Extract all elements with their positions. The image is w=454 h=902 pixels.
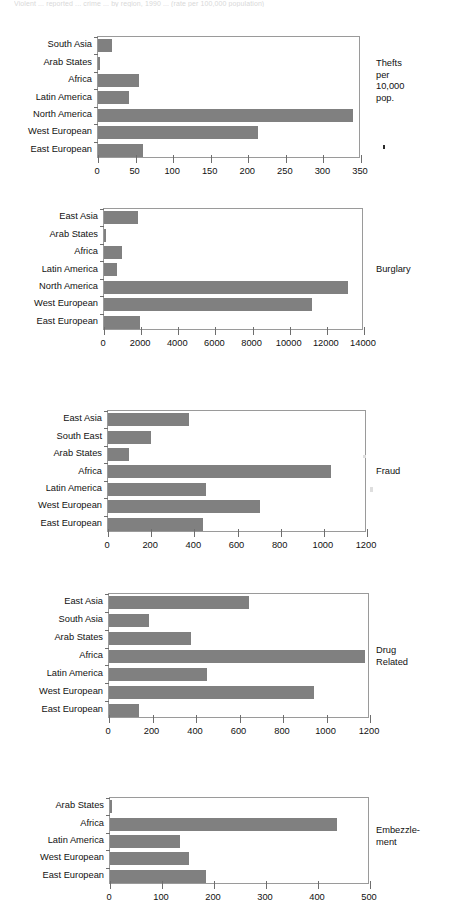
- bar: [110, 818, 337, 831]
- plot-frame: [107, 410, 366, 532]
- y-axis-tick: [104, 481, 108, 482]
- bar: [109, 704, 139, 717]
- x-tick-label: 200: [193, 892, 233, 902]
- x-axis-tick: [248, 155, 249, 163]
- x-tick-label: 800: [262, 726, 302, 736]
- category-label: Arab States: [0, 800, 104, 810]
- category-label: Arab States: [0, 229, 98, 239]
- y-axis-tick: [100, 314, 104, 315]
- plot-area-embezzlement: [109, 797, 369, 884]
- y-axis-tick: [100, 296, 104, 297]
- y-axis-tick: [106, 850, 110, 851]
- x-tick-label: 400: [175, 726, 215, 736]
- cropped-header-text: Violent ... reported ... crime ... by re…: [14, 0, 434, 7]
- category-label: Latin America: [0, 668, 103, 678]
- side-label-thefts: Thefts per 10,000 pop.: [376, 58, 404, 104]
- bar: [109, 596, 249, 609]
- y-axis-tick: [106, 815, 110, 816]
- plot-frame: [108, 593, 369, 718]
- x-tick-label: 400: [297, 892, 337, 902]
- x-tick-label: 1200: [349, 726, 389, 736]
- stray-ink-mark: [383, 145, 385, 149]
- y-axis-tick: [106, 798, 110, 799]
- side-label-fraud: Fraud: [376, 466, 400, 478]
- y-axis-tick: [104, 411, 108, 412]
- y-axis-tick: [100, 244, 104, 245]
- x-tick-label: 600: [217, 540, 257, 550]
- y-axis-tick: [105, 701, 109, 702]
- plot-frame: [97, 36, 360, 158]
- chart-thefts: Thefts per 10,000 pop. South AsiaArab St…: [0, 32, 454, 182]
- x-axis-tick: [370, 881, 371, 889]
- category-label: Africa: [0, 650, 103, 660]
- x-tick-label: 300: [245, 892, 285, 902]
- x-tick-label: 4000: [157, 338, 197, 348]
- y-axis-tick: [100, 209, 104, 210]
- x-axis-tick: [196, 715, 197, 723]
- x-axis-tick: [211, 155, 212, 163]
- y-axis-tick: [104, 516, 108, 517]
- scan-speck: [370, 487, 373, 492]
- bar: [108, 465, 331, 478]
- bar: [109, 632, 191, 645]
- category-label: Latin America: [0, 264, 98, 274]
- y-axis-tick: [100, 226, 104, 227]
- y-axis-tick: [94, 142, 98, 143]
- x-tick-label: 500: [349, 892, 389, 902]
- x-axis-tick: [240, 715, 241, 723]
- x-axis-tick: [253, 327, 254, 335]
- x-tick-label: 50: [115, 166, 155, 176]
- bar: [110, 870, 206, 883]
- x-axis-tick: [110, 881, 111, 889]
- chart-burglary: Burglary East AsiaArab StatesAfricaLatin…: [0, 204, 454, 354]
- y-axis-tick: [106, 868, 110, 869]
- x-tick-label: 1200: [346, 540, 386, 550]
- y-axis-tick: [100, 279, 104, 280]
- y-axis-tick: [105, 665, 109, 666]
- category-label: West European: [0, 126, 92, 136]
- x-axis-tick: [238, 529, 239, 537]
- x-axis-tick: [194, 529, 195, 537]
- x-tick-label: 8000: [232, 338, 272, 348]
- bar: [104, 281, 348, 294]
- x-tick-label: 150: [190, 166, 230, 176]
- category-label: North America: [0, 109, 92, 119]
- bar: [108, 483, 206, 496]
- x-axis-tick: [178, 327, 179, 335]
- bar: [104, 229, 106, 242]
- x-tick-label: 1000: [306, 726, 346, 736]
- x-axis-tick: [151, 529, 152, 537]
- category-label: Latin America: [0, 483, 102, 493]
- x-axis-tick: [215, 327, 216, 335]
- x-tick-label: 6000: [194, 338, 234, 348]
- category-label: West European: [0, 500, 102, 510]
- y-axis-tick: [94, 37, 98, 38]
- y-axis-tick: [106, 833, 110, 834]
- bar: [98, 109, 353, 122]
- category-label: East European: [0, 144, 92, 154]
- category-label: East Asia: [0, 211, 98, 221]
- category-label: Arab States: [0, 57, 92, 67]
- y-axis-tick: [104, 428, 108, 429]
- bar: [108, 448, 129, 461]
- y-axis-tick: [105, 630, 109, 631]
- plot-area-fraud: [107, 410, 366, 532]
- x-tick-label: 200: [130, 540, 170, 550]
- category-label: East European: [0, 316, 98, 326]
- plot-frame: [109, 797, 369, 884]
- side-label-embezzlement: Embezzle- ment: [376, 825, 420, 848]
- y-axis-tick: [94, 72, 98, 73]
- x-axis-tick: [364, 327, 365, 335]
- category-label: South Asia: [0, 614, 103, 624]
- category-label: Arab States: [0, 448, 102, 458]
- x-tick-label: 0: [77, 166, 117, 176]
- x-tick-label: 0: [87, 540, 127, 550]
- y-axis-tick: [104, 463, 108, 464]
- bar: [109, 650, 365, 663]
- x-axis-tick: [104, 327, 105, 335]
- x-axis-tick: [283, 715, 284, 723]
- bar: [104, 298, 312, 311]
- y-axis-tick: [94, 54, 98, 55]
- x-axis-tick: [361, 155, 362, 163]
